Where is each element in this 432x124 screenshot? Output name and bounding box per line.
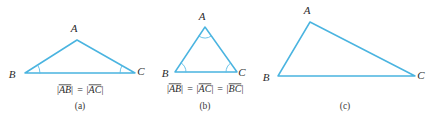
panel-caption-c: (c) <box>340 101 351 112</box>
triangle-a-outline <box>25 40 135 73</box>
equation-term-AC: |AC| <box>197 83 214 94</box>
vertex-label-c-A: A <box>303 4 311 16</box>
equation-term-AC: |AC| <box>87 84 104 95</box>
vertex-label-b-B: B <box>162 67 169 79</box>
angle-arc-a-B <box>38 65 40 73</box>
equation-a: |AB|=|AC| <box>57 84 104 95</box>
angle-arc-b-B <box>181 63 186 72</box>
vertex-label-c-C: C <box>417 69 425 81</box>
panel-b: A B C |AB|=|AC|=|BC| (b) <box>162 10 247 112</box>
equation-term-AB: |AB| <box>167 83 183 94</box>
vertex-label-a-C: C <box>137 65 145 77</box>
equation-term-AB: |AB| <box>57 84 73 95</box>
panel-caption-b: (b) <box>199 101 210 112</box>
angle-arc-b-A <box>199 36 211 38</box>
angle-arc-b-C <box>226 63 231 72</box>
equation-b: |AB|=|AC|=|BC| <box>167 83 244 94</box>
panel-a: A B C |AB|=|AC| (a) <box>9 22 146 112</box>
vertex-label-c-B: B <box>263 71 270 83</box>
equation-operator: = <box>77 84 83 95</box>
figure-canvas: A B C |AB|=|AC| (a) A B C |AB|=|AC|=|BC|… <box>0 0 432 124</box>
equation-operator: = <box>187 83 193 94</box>
vertex-label-b-C: C <box>238 66 246 78</box>
equation-operator: = <box>217 83 223 94</box>
vertex-label-a-A: A <box>70 22 78 34</box>
triangle-c-outline <box>278 22 415 76</box>
vertex-label-a-B: B <box>9 68 16 80</box>
panel-caption-a: (a) <box>75 101 86 112</box>
vertex-label-b-A: A <box>198 10 206 22</box>
equation-term-BC: |BC| <box>227 83 244 94</box>
angle-arc-a-C <box>120 66 122 73</box>
panel-c: A B C (c) <box>263 4 426 112</box>
triangles-figure: A B C |AB|=|AC| (a) A B C |AB|=|AC|=|BC|… <box>0 0 432 124</box>
